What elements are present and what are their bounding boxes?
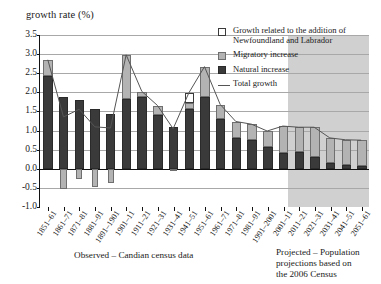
migratory-swatch-icon: [218, 52, 226, 60]
y-axis-tick-label: -1.0: [22, 202, 37, 212]
legend-label-migratory: Migratory increase: [233, 50, 298, 60]
legend-item-total-growth: Total growth: [218, 79, 378, 89]
y-axis-tick-mark: [37, 92, 41, 93]
y-axis-tick-mark: [37, 207, 41, 208]
projected-caption-line1: Projected – Population: [276, 247, 360, 257]
y-axis-tick-label: -0.5: [22, 183, 37, 193]
legend-item-natural: Natural increase: [218, 65, 378, 75]
legend-label-total-growth: Total growth: [233, 79, 277, 89]
y-axis-tick-label: 2.5: [25, 68, 37, 78]
y-axis-tick-label: 2.0: [25, 88, 37, 98]
y-axis-tick-label: 1.5: [25, 107, 37, 117]
axis-title: growth rate (%): [26, 9, 94, 20]
legend-label-natural: Natural increase: [233, 65, 289, 75]
y-axis-tick-label: 1.0: [25, 126, 37, 136]
total-growth-line-icon: [218, 81, 230, 89]
y-axis-tick-mark: [37, 150, 41, 151]
y-axis-tick-label: 3.5: [25, 30, 37, 40]
y-axis-tick-mark: [37, 131, 41, 132]
y-axis-tick-mark: [37, 188, 41, 189]
y-axis-tick-mark: [37, 111, 41, 112]
legend-label-newfoundland: Growth related to the addition of Newfou…: [233, 26, 378, 45]
natural-swatch-icon: [218, 66, 226, 74]
projected-caption: Projected – Population projections based…: [276, 247, 381, 280]
y-axis-tick-mark: [37, 169, 41, 170]
projected-caption-line3: the 2006 Census: [276, 269, 337, 279]
newfoundland-swatch-icon: [218, 28, 226, 36]
y-axis-tick-label: 3.0: [25, 49, 37, 59]
legend-item-migratory: Migratory increase: [218, 50, 378, 60]
observed-caption: Observed – Candian census data: [74, 250, 193, 261]
legend: Growth related to the addition of Newfou…: [218, 26, 378, 94]
y-axis-tick-label: 0.0: [25, 164, 37, 174]
chart-root: growth rate (%) 3.53.02.52.01.51.00.50.0…: [0, 0, 381, 284]
legend-item-newfoundland: Growth related to the addition of Newfou…: [218, 26, 378, 45]
y-axis-tick-label: 0.5: [25, 145, 37, 155]
y-axis-tick-mark: [37, 73, 41, 74]
y-axis-tick-mark: [37, 35, 41, 36]
projected-caption-line2: projections based on: [276, 258, 352, 268]
y-axis-tick-mark: [37, 54, 41, 55]
